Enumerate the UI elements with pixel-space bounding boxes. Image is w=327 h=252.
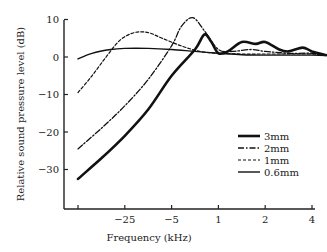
frequency-response-chart: 100−10−20−30 −25−5124 Relative sound pre…: [0, 0, 327, 252]
legend-item: 0.6mm: [238, 167, 299, 178]
y-tick-label: −30: [38, 164, 59, 175]
y-tick-label: 0: [53, 52, 59, 63]
legend-label: 0.6mm: [264, 167, 299, 178]
x-tick-label: 4: [309, 214, 315, 225]
legend-label: 2mm: [264, 143, 290, 154]
x-ticks: −25−5124: [78, 205, 315, 225]
legend-item: 1mm: [238, 155, 290, 166]
legend-item: 3mm: [238, 131, 290, 142]
legend-item: 2mm: [238, 143, 290, 154]
legend-label: 1mm: [264, 155, 290, 166]
legend-label: 3mm: [264, 131, 290, 142]
x-tick-label: −5: [164, 214, 179, 225]
x-tick-label: 1: [215, 214, 221, 225]
y-tick-label: −10: [38, 89, 59, 100]
y-tick-label: −20: [38, 127, 59, 138]
series-line-1mm: [78, 32, 326, 93]
x-tick-label: −25: [114, 214, 135, 225]
y-tick-label: 10: [46, 14, 59, 25]
x-axis-title: Frequency (kHz): [106, 232, 191, 243]
y-axis-title: Relative sound pressure level (dB): [15, 27, 26, 202]
x-tick-label: 2: [262, 214, 268, 225]
legend: 3mm2mm1mm0.6mm: [238, 131, 299, 178]
